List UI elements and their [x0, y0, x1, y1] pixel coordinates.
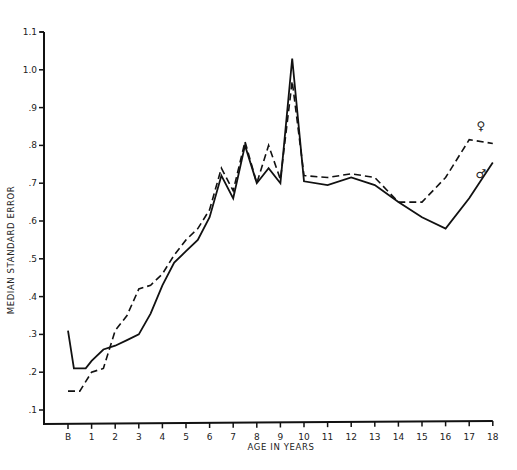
x-tick-label: 4 — [160, 432, 166, 442]
series-line-female — [68, 81, 493, 391]
series-lines — [68, 59, 493, 392]
x-tick-label: 10 — [298, 432, 310, 442]
x-tick-label: 6 — [207, 432, 213, 442]
x-tick-label: 14 — [393, 432, 405, 442]
x-axis-label: AGE IN YEARS — [248, 442, 315, 452]
y-tick-label: .2 — [28, 367, 37, 377]
line-chart: .1.2.3.4.5.6.7.8.91.01.1 B12345678910111… — [0, 0, 517, 470]
x-tick-label: 16 — [440, 432, 452, 442]
y-tick-label: .1 — [28, 405, 37, 415]
x-tick-label: 7 — [230, 432, 236, 442]
male-symbol-icon: ♂ — [476, 167, 487, 181]
y-tick-label: .6 — [28, 216, 37, 226]
x-tick-label: 17 — [463, 432, 474, 442]
x-tick-label: B — [65, 432, 71, 442]
y-tick-label: .7 — [28, 178, 37, 188]
x-axis-line — [43, 421, 493, 424]
y-axis-ticks: .1.2.3.4.5.6.7.8.91.01.1 — [23, 27, 44, 415]
y-tick-label: .8 — [28, 140, 37, 150]
x-tick-label: 9 — [278, 432, 284, 442]
y-tick-label: 1.1 — [23, 27, 37, 37]
y-axis-label: MEDIAN STANDARD ERROR — [6, 186, 16, 314]
x-tick-label: 13 — [369, 432, 380, 442]
x-tick-label: 2 — [112, 432, 118, 442]
y-tick-label: .4 — [28, 292, 37, 302]
series-annotations: ♀♂ — [476, 119, 487, 180]
y-tick-label: .3 — [28, 329, 37, 339]
y-tick-label: 1.0 — [23, 65, 38, 75]
female-symbol-icon: ♀ — [477, 119, 486, 133]
x-tick-label: 1 — [89, 432, 95, 442]
series-line-male — [68, 59, 493, 369]
x-tick-label: 15 — [416, 432, 427, 442]
y-tick-label: .5 — [28, 254, 37, 264]
axes — [40, 32, 493, 424]
x-tick-label: 11 — [322, 432, 333, 442]
x-tick-label: 3 — [136, 432, 142, 442]
x-tick-label: 8 — [254, 432, 260, 442]
y-tick-label: .9 — [28, 103, 37, 113]
x-tick-label: 5 — [183, 432, 189, 442]
x-tick-label: 12 — [345, 432, 356, 442]
x-tick-label: 18 — [487, 432, 499, 442]
